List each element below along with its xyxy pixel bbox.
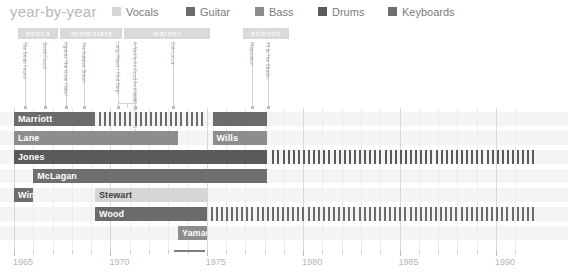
album-marker[interactable]: Playmates⁸	[252, 42, 253, 108]
dash-tick	[323, 207, 325, 221]
dash-tick	[180, 112, 182, 126]
axis-tick	[226, 250, 227, 254]
gridline	[342, 108, 343, 250]
album-marker[interactable]: The Small Faces¹	[25, 42, 26, 108]
timeline-dashed-bar-marriott[interactable]	[99, 112, 207, 126]
legend-swatch-icon	[112, 7, 121, 16]
album-marker[interactable]: The Autumn Stone⁴	[84, 42, 85, 108]
timeline-bar-yamauchi[interactable]: Yamauchi	[178, 226, 207, 240]
dash-tick	[471, 207, 473, 221]
timeline-dashed-bar-wood[interactable]	[211, 207, 535, 221]
timeline-bar-jones[interactable]: Jones	[14, 150, 267, 164]
page-title: year-by-year	[10, 3, 97, 20]
dash-tick	[527, 150, 529, 164]
dash-tick	[404, 207, 406, 221]
record-label-warner[interactable]: warner	[124, 28, 210, 39]
timeline-bar-wills[interactable]: Wills	[213, 131, 267, 145]
gridline	[419, 108, 420, 250]
dash-tick	[339, 150, 341, 164]
record-label-decca[interactable]: decca	[18, 28, 58, 39]
axis-tick	[149, 250, 150, 254]
legend-swatch-icon	[255, 7, 264, 16]
dash-tick	[481, 150, 483, 164]
dash-tick	[283, 150, 285, 164]
dash-tick	[359, 207, 361, 221]
timeline-dashed-bar-jones[interactable]	[272, 150, 534, 164]
legend-item-vocals[interactable]: Vocals	[112, 4, 158, 19]
timeline-bar-mclagan[interactable]: McLagan	[33, 169, 266, 183]
axis-tick	[515, 250, 516, 254]
legend-item-bass[interactable]: Bass	[255, 4, 293, 19]
dash-tick	[231, 207, 233, 221]
dash-tick	[303, 150, 305, 164]
dash-tick	[399, 207, 401, 221]
dash-tick	[344, 150, 346, 164]
legend-item-drums[interactable]: Drums	[318, 4, 364, 19]
gridline	[322, 108, 323, 250]
dash-tick	[343, 207, 345, 221]
axis-tick	[207, 250, 208, 256]
album-marker[interactable]: 78 In The Shade⁹	[268, 42, 269, 108]
timeline-bar-stewart[interactable]: Stewart	[95, 188, 207, 202]
axis-tick-label: 1985	[399, 257, 419, 267]
album-title: Playmates⁸	[249, 42, 254, 66]
dash-tick	[257, 207, 259, 221]
record-label-band: deccaimmediatewarneratlantic	[0, 28, 568, 40]
axis-tick	[496, 250, 497, 256]
timeline-bar-wood[interactable]: Wood	[95, 207, 207, 221]
axis-tick	[457, 250, 458, 254]
album-marker[interactable]: Ogdens' Nut Gone Flake³	[66, 42, 67, 108]
record-label-atlantic[interactable]: atlantic	[243, 28, 289, 39]
dash-tick	[359, 150, 361, 164]
dash-tick	[374, 150, 376, 164]
gridline	[515, 108, 516, 250]
gridline	[400, 108, 401, 250]
dash-tick	[262, 207, 264, 221]
dash-tick	[390, 150, 392, 164]
chart-header: year-by-year VocalsGuitarBassDrumsKeyboa…	[0, 0, 568, 24]
dash-tick	[160, 112, 162, 126]
axis-tick-label: 1970	[109, 257, 129, 267]
timeline-bar-label: Wood	[95, 209, 124, 219]
gridline	[380, 108, 381, 250]
timeline-bar-lane[interactable]: Lane	[14, 131, 178, 145]
timeline-bar-label: Marriott	[14, 114, 52, 124]
axis-tick-label: 1965	[13, 257, 33, 267]
axis-tick-label: 1975	[206, 257, 226, 267]
axis-tick	[342, 250, 343, 254]
timeline-bar-marriott[interactable]	[213, 112, 267, 126]
dash-tick	[389, 207, 391, 221]
timeline-bar-marriott[interactable]: Marriott	[14, 112, 95, 126]
axis-tick	[33, 250, 34, 254]
album-marker[interactable]: Ooh La La⁷	[173, 42, 174, 108]
dash-tick	[410, 207, 412, 221]
album-marker[interactable]: Small Faces²	[45, 42, 46, 108]
legend-item-guitar[interactable]: Guitar	[186, 4, 230, 19]
timeline-bar-label: Jones	[14, 152, 45, 162]
album-group-bracket	[118, 98, 137, 104]
dash-tick	[394, 207, 396, 221]
dash-tick	[502, 150, 504, 164]
dash-tick	[420, 150, 422, 164]
axis-tick	[72, 250, 73, 254]
dash-tick	[384, 207, 386, 221]
dash-tick	[124, 112, 126, 126]
dash-tick	[395, 150, 397, 164]
dash-tick	[334, 150, 336, 164]
timeline-bar-label: Stewart	[95, 190, 132, 200]
timeline-bar-winston[interactable]: Winston	[14, 188, 33, 202]
album-title: The Autumn Stone⁴	[81, 42, 86, 84]
x-axis: 196519701975198019851990	[0, 250, 568, 278]
dash-tick	[175, 112, 177, 126]
dash-tick	[506, 207, 508, 221]
dash-tick	[129, 112, 131, 126]
axis-tick-label: 1990	[495, 257, 515, 267]
gridline	[361, 108, 362, 250]
axis-tick	[361, 250, 362, 254]
dash-tick	[476, 150, 478, 164]
dash-tick	[221, 207, 223, 221]
record-label-immediate[interactable]: immediate	[60, 28, 122, 39]
axis-tick	[91, 250, 92, 254]
axis-tick	[322, 250, 323, 254]
legend-item-keyboards[interactable]: Keyboards	[388, 4, 455, 19]
